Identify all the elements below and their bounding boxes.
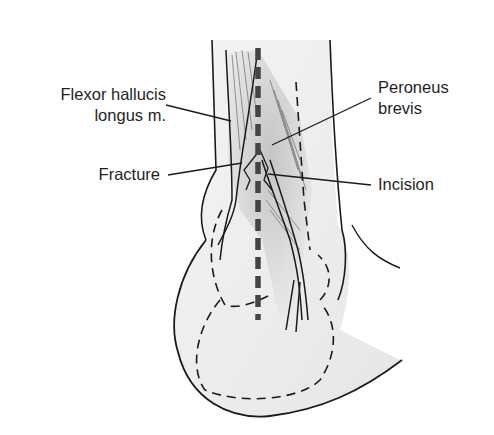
label-flexor-hallucis: Flexor hallucis longus m. <box>18 84 166 126</box>
label-peroneus-line1: Peroneus <box>378 77 449 98</box>
label-fracture: Fracture <box>40 164 160 185</box>
label-flexor-line2: longus m. <box>18 105 166 126</box>
label-peroneus-brevis: Peroneus brevis <box>378 77 449 119</box>
ankle-drawing <box>0 0 494 435</box>
ankle-illustration: Flexor hallucis longus m. Fracture Peron… <box>0 0 494 435</box>
label-peroneus-line2: brevis <box>378 98 449 119</box>
label-flexor-line1: Flexor hallucis <box>18 84 166 105</box>
label-incision: Incision <box>378 174 434 195</box>
